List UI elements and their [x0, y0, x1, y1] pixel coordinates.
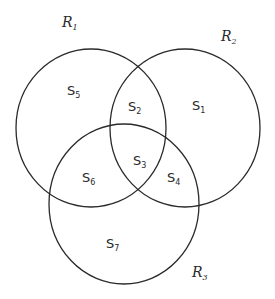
- venn-diagram: R1 R2 R3 S1 S2 S3 S4 S5 S6 S7: [0, 0, 275, 299]
- set-label-r3: R3: [191, 264, 208, 282]
- region-label-s2: S2: [128, 99, 141, 116]
- region-label-s6: S6: [82, 170, 95, 187]
- region-label-s4: S4: [167, 170, 180, 187]
- region-label-s1: S1: [192, 98, 205, 115]
- set-label-r2: R2: [220, 28, 237, 46]
- region-label-s3: S3: [133, 153, 146, 170]
- region-label-s5: S5: [67, 83, 80, 100]
- set-label-r1: R1: [61, 14, 78, 32]
- set-circle-r2: [110, 49, 260, 207]
- region-label-s7: S7: [106, 236, 119, 253]
